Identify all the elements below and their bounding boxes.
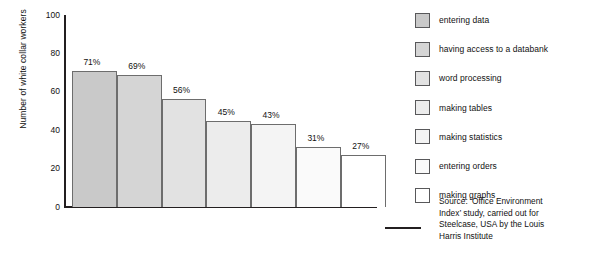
legend-label-2: having access to a databank [439,44,548,54]
legend-swatch-icon-4 [415,100,430,115]
legend-item-3[interactable]: word processing [415,70,502,86]
bar-value-label-7: 27% [352,142,369,151]
legend-item-4[interactable]: making tables [415,100,492,116]
legend-item-1[interactable]: entering data [415,12,489,28]
y-axis-tick-100: 100 [36,11,60,20]
legend-swatch-icon-5 [415,129,430,144]
bar-value-label-4: 45% [218,108,235,117]
bar-value-label-2: 69% [128,62,145,71]
bar-7 [341,155,386,207]
bar-1 [72,71,117,207]
legend-item-6[interactable]: entering orders [415,158,497,174]
chart-legend: entering datahaving access to a databank… [415,0,590,253]
legend-swatch-icon-7 [415,188,430,203]
y-axis-tick-80: 80 [36,49,60,58]
bar-value-label-6: 31% [307,134,324,143]
legend-item-2[interactable]: having access to a databank [415,41,548,57]
legend-label-6: entering orders [439,161,497,171]
bar-series: 71%69%56%45%43%31%27% [64,0,384,207]
source-divider-rule [385,227,421,229]
legend-label-3: word processing [439,73,502,83]
bar-value-label-5: 43% [263,111,280,120]
legend-label-5: making statistics [439,132,502,142]
legend-label-4: making tables [439,103,492,113]
legend-item-5[interactable]: making statistics [415,129,502,145]
bar-value-label-3: 56% [173,86,190,95]
source-line-3: Steelcase, USA by the Louis [439,219,590,231]
bar-chart-figure: Number of white collar workers 020406080… [0,0,590,253]
bar-value-label-1: 71% [83,58,100,67]
legend-swatch-icon-3 [415,71,430,86]
source-line-2: Index’ study, carried out for [439,208,590,220]
legend-swatch-icon-2 [415,42,430,57]
y-axis-tick-20: 20 [36,164,60,173]
legend-swatch-icon-6 [415,159,430,174]
y-axis-tick-0: 0 [36,203,60,212]
y-axis-tick-60: 60 [36,87,60,96]
bar-2 [117,75,162,207]
y-axis-title: Number of white collar workers [18,0,28,144]
y-axis-tick-labels: 020406080100 [36,0,60,253]
source-line-4: Harris Institute [439,231,590,243]
bar-5 [251,124,296,207]
legend-label-1: entering data [439,15,489,25]
bar-4 [206,121,251,207]
y-axis-tick-40: 40 [36,126,60,135]
plot-area: Number of white collar workers 020406080… [0,0,400,253]
legend-swatch-icon-1 [415,13,430,28]
bar-3 [162,99,207,207]
bar-6 [296,147,341,207]
source-note: Source: ‘Office Environment Index’ study… [439,196,590,242]
source-line-1: Source: ‘Office Environment [439,196,590,208]
